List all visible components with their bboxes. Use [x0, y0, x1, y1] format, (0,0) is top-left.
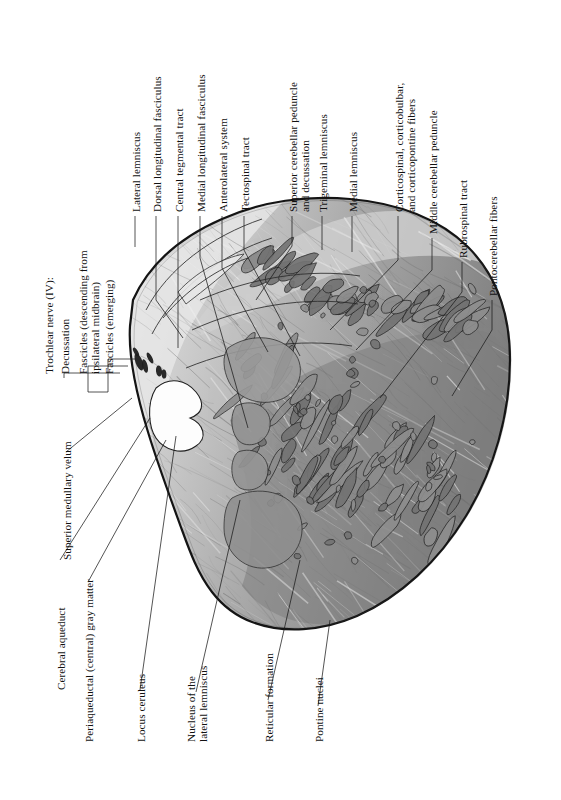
label-dorsal-longitudinal-fasciculus-line-1: Dorsal longitudinal fasciculus — [152, 76, 164, 212]
label-lateral-lemniscus: Lateral lemniscus — [131, 132, 143, 212]
label-superior-cerebellar-peduncle: Superior cerebellar peduncleand decussat… — [288, 82, 311, 212]
label-reticular-formation-line-1: Reticular formation — [264, 653, 276, 742]
label-nucleus-lateral-lemniscus: Nucleus of thelateral lemniscus — [186, 666, 209, 742]
label-medial-longitudinal-fasciculus-line-1: Medial longitudinal fasciculus — [196, 74, 208, 212]
label-medial-lemniscus-line-1: Medial lemniscus — [348, 132, 360, 212]
label-cerebral-aqueduct: Cerebral aqueduct — [56, 607, 68, 690]
label-decussation: Decussation — [60, 319, 72, 374]
label-corticospinal-corticobulbar-line-2: and corticopontine fibers — [406, 83, 418, 212]
label-central-tegmental-tract-line-1: Central tegmental tract — [174, 108, 186, 212]
label-middle-cerebellar-peduncle-line-1: Middle cerebellar peduncle — [428, 110, 440, 234]
label-dorsal-longitudinal-fasciculus: Dorsal longitudinal fasciculus — [152, 76, 164, 212]
label-nucleus-lateral-lemniscus-line-2: lateral lemniscus — [198, 666, 210, 742]
label-trochlear-nerve-heading: Trochlear nerve (IV): — [44, 277, 56, 374]
label-superior-medullary-velum: Superior medullary velum — [62, 441, 74, 560]
label-central-tegmental-tract: Central tegmental tract — [174, 108, 186, 212]
label-medial-longitudinal-fasciculus: Medial longitudinal fasciculus — [196, 74, 208, 212]
label-trigeminal-lemniscus-line-1: Trigeminal lemniscus — [318, 114, 330, 212]
label-decussation-line-1: Decussation — [60, 319, 72, 374]
label-medial-lemniscus: Medial lemniscus — [348, 132, 360, 212]
label-pontine-nuclei-line-1: Pontine nuclei — [314, 677, 326, 742]
label-locus-ceruleus-line-1: Locus ceruleus — [136, 674, 148, 742]
label-anterolateral-system-line-1: Anterolateral system — [218, 118, 230, 212]
label-trigeminal-lemniscus: Trigeminal lemniscus — [318, 114, 330, 212]
label-corticospinal-corticobulbar-line-1: Corticospinal, corticobulbar, — [394, 83, 406, 212]
label-tectospinal-tract: Tectospinal tract — [240, 137, 252, 212]
label-lateral-lemniscus-line-1: Lateral lemniscus — [131, 132, 143, 212]
label-cerebral-aqueduct-line-1: Cerebral aqueduct — [56, 607, 68, 690]
label-fascicles-descending: Fascicles (descending fromipsilateral mi… — [78, 250, 101, 374]
label-tectospinal-tract-line-1: Tectospinal tract — [240, 137, 252, 212]
label-locus-ceruleus: Locus ceruleus — [136, 674, 148, 742]
label-pontocerebellar-fibers-line-1: Pontocerebellar fibers — [488, 196, 500, 296]
label-fascicles-emerging-line-1: Fascicles (emerging) — [104, 280, 116, 374]
label-rubrospinal-tract-line-1: Rubrospinal tract — [458, 180, 470, 258]
label-rubrospinal-tract: Rubrospinal tract — [458, 180, 470, 258]
label-fascicles-emerging: Fascicles (emerging) — [104, 280, 116, 374]
label-trochlear-nerve-heading-line-1: Trochlear nerve (IV): — [44, 277, 56, 374]
label-periaqueductal-gray: Periaqueductal (central) gray matter — [84, 579, 96, 742]
label-superior-cerebellar-peduncle-line-1: Superior cerebellar peduncle — [288, 82, 300, 212]
label-pontine-nuclei: Pontine nuclei — [314, 677, 326, 742]
label-periaqueductal-gray-line-1: Periaqueductal (central) gray matter — [84, 579, 96, 742]
label-fascicles-descending-line-2: ipsilateral midbrain) — [90, 250, 102, 374]
anatomical-figure: Lateral lemniscusDorsal longitudinal fas… — [0, 0, 561, 800]
label-fascicles-descending-line-1: Fascicles (descending from — [78, 250, 90, 374]
label-corticospinal-corticobulbar: Corticospinal, corticobulbar,and cortico… — [394, 83, 417, 212]
label-superior-cerebellar-peduncle-line-2: and decussation — [300, 82, 312, 212]
label-middle-cerebellar-peduncle: Middle cerebellar peduncle — [428, 110, 440, 234]
label-nucleus-lateral-lemniscus-line-1: Nucleus of the — [186, 666, 198, 742]
label-anterolateral-system: Anterolateral system — [218, 118, 230, 212]
label-pontocerebellar-fibers: Pontocerebellar fibers — [488, 196, 500, 296]
label-superior-medullary-velum-line-1: Superior medullary velum — [62, 441, 74, 560]
label-reticular-formation: Reticular formation — [264, 653, 276, 742]
